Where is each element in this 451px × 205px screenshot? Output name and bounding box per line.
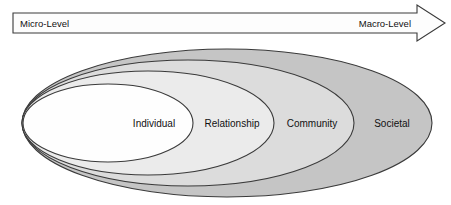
continuum-arrow-group: Micro-Level Macro-Level <box>13 5 445 41</box>
label-community: Community <box>287 118 338 129</box>
social-ecological-model-diagram: Micro-Level Macro-Level Individual Relat… <box>0 0 451 205</box>
macro-level-label: Macro-Level <box>359 18 411 29</box>
label-individual: Individual <box>133 118 175 129</box>
micro-level-label: Micro-Level <box>20 18 69 29</box>
label-relationship: Relationship <box>204 118 259 129</box>
label-societal: Societal <box>374 118 410 129</box>
